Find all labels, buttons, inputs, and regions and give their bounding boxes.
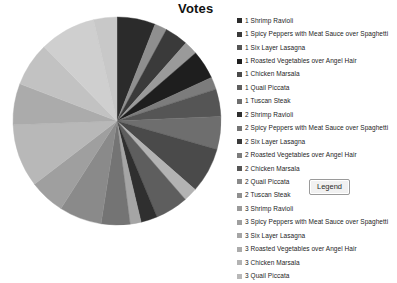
legend-swatch-icon bbox=[237, 193, 242, 198]
legend-swatch-icon bbox=[237, 32, 242, 37]
legend-item-label: 3 Roasted Vegetables over Angel Hair bbox=[245, 245, 357, 253]
legend-item[interactable]: 2 Six Layer Lasagna bbox=[236, 135, 397, 148]
legend-item[interactable]: 1 Quail Piccata bbox=[236, 81, 397, 94]
legend-swatch-icon bbox=[237, 126, 242, 131]
legend-item-label: 1 Quail Piccata bbox=[245, 84, 289, 92]
legend-item-label: 2 Spicy Peppers with Meat Sauce over Spa… bbox=[245, 124, 388, 132]
legend-swatch-icon bbox=[237, 72, 242, 77]
legend-item[interactable]: 3 Six Layer Lasagna bbox=[236, 229, 397, 242]
pie-chart-graphic[interactable] bbox=[10, 16, 224, 226]
legend-item-label: 1 Tuscan Steak bbox=[245, 97, 291, 105]
legend-swatch-icon bbox=[237, 18, 242, 23]
legend-item[interactable]: 1 Tuscan Steak bbox=[236, 95, 397, 108]
legend-item-label: 2 Shrimp Ravioli bbox=[245, 111, 293, 119]
legend-item[interactable]: 3 Roasted Vegetables over Angel Hair bbox=[236, 242, 397, 255]
legend-item-label: 2 Tuscan Steak bbox=[245, 191, 291, 199]
pie-chart-panel: Votes 1 Shrimp Ravioli1 Spicy Peppers wi… bbox=[0, 0, 397, 283]
legend-swatch-icon bbox=[237, 247, 242, 252]
legend-swatch-icon bbox=[237, 233, 242, 238]
legend-swatch-icon bbox=[237, 166, 242, 171]
legend-item-label: 1 Six Layer Lasagna bbox=[245, 44, 305, 52]
legend-swatch-icon bbox=[237, 59, 242, 64]
legend-item-label: 2 Roasted Vegetables over Angel Hair bbox=[245, 151, 357, 159]
legend-item[interactable]: 3 Quail Piccata bbox=[236, 269, 397, 282]
legend-item[interactable]: 1 Six Layer Lasagna bbox=[236, 41, 397, 54]
legend-item[interactable]: 1 Chicken Marsala bbox=[236, 68, 397, 81]
legend-item[interactable]: 2 Roasted Vegetables over Angel Hair bbox=[236, 148, 397, 161]
legend-item-label: 2 Six Layer Lasagna bbox=[245, 138, 305, 146]
legend-item-label: 1 Shrimp Ravioli bbox=[245, 17, 293, 25]
legend-item[interactable]: 2 Chicken Marsala bbox=[236, 162, 397, 175]
legend-item[interactable]: 3 Chicken Marsala bbox=[236, 256, 397, 269]
legend-item-label: 3 Spicy Peppers with Meat Sauce over Spa… bbox=[245, 218, 388, 226]
legend-item[interactable]: 1 Shrimp Ravioli bbox=[236, 14, 397, 27]
legend-swatch-icon bbox=[237, 85, 242, 90]
legend-swatch-icon bbox=[237, 139, 242, 144]
legend-swatch-icon bbox=[237, 99, 242, 104]
legend-swatch-icon bbox=[237, 260, 242, 265]
legend-item-label: 3 Shrimp Ravioli bbox=[245, 205, 293, 213]
legend-item-label: 3 Quail Piccata bbox=[245, 272, 289, 280]
legend-item[interactable]: 3 Spicy Peppers with Meat Sauce over Spa… bbox=[236, 216, 397, 229]
legend-swatch-icon bbox=[237, 220, 242, 225]
legend-item[interactable]: 1 Roasted Vegetables over Angel Hair bbox=[236, 54, 397, 67]
legend-swatch-icon bbox=[237, 206, 242, 211]
legend-item[interactable]: 3 Shrimp Ravioli bbox=[236, 202, 397, 215]
legend-item[interactable]: 2 Shrimp Ravioli bbox=[236, 108, 397, 121]
pie-svg bbox=[10, 16, 224, 226]
legend-item[interactable]: 2 Spicy Peppers with Meat Sauce over Spa… bbox=[236, 122, 397, 135]
legend-item[interactable]: 1 Spicy Peppers with Meat Sauce over Spa… bbox=[236, 27, 397, 40]
legend-item-label: 1 Spicy Peppers with Meat Sauce over Spa… bbox=[245, 30, 388, 38]
legend-swatch-icon bbox=[237, 112, 242, 117]
legend-swatch-icon bbox=[237, 153, 242, 158]
legend-swatch-icon bbox=[237, 45, 242, 50]
legend-item-label: 1 Chicken Marsala bbox=[245, 70, 300, 78]
legend-tooltip[interactable]: Legend bbox=[309, 179, 350, 195]
legend-item-label: 2 Quail Piccata bbox=[245, 178, 289, 186]
legend-swatch-icon bbox=[237, 274, 242, 279]
legend-swatch-icon bbox=[237, 179, 242, 184]
chart-legend: 1 Shrimp Ravioli1 Spicy Peppers with Mea… bbox=[236, 14, 397, 283]
legend-item-label: 1 Roasted Vegetables over Angel Hair bbox=[245, 57, 357, 65]
legend-item-label: 2 Chicken Marsala bbox=[245, 165, 300, 173]
legend-item-label: 3 Chicken Marsala bbox=[245, 259, 300, 267]
legend-item-label: 3 Six Layer Lasagna bbox=[245, 232, 305, 240]
